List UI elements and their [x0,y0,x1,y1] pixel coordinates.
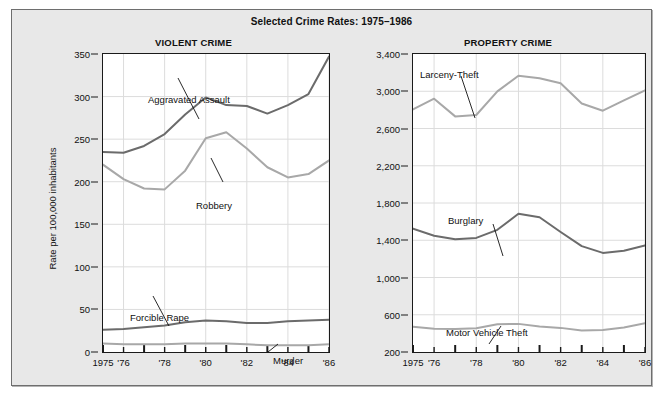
annotation-leader-line [211,158,223,182]
x-axis-tick-label: '86 [639,357,651,368]
x-axis-tick-label: '80 [512,357,524,368]
y-axis-tick-mark [91,352,98,353]
y-axis-tick-label: 3,000 [376,86,400,97]
y-axis-tick-label: 150 [74,219,90,230]
y-axis-tick-label: 1,400 [376,235,400,246]
x-axis-tick-label: '78 [158,357,170,368]
y-axis-tick-mark [401,277,408,278]
series-label-larceny-theft: Larceny-Theft [420,69,479,80]
x-axis-tick-label: '82 [554,357,566,368]
y-axis-tick-mark [401,203,408,204]
x-axis-labels-property: 1975'76'78'80'82'84'86 [412,357,646,373]
panel-heading-property: PROPERTY CRIME [334,37,646,48]
y-axis-tick-mark [91,181,98,182]
y-axis-tick-mark [401,128,408,129]
series-label-motor-vehicle-theft: Motor Vehicle Theft [446,327,528,338]
y-axis-tick-mark [401,314,408,315]
y-axis-tick-mark [401,54,408,55]
series-line-larceny-theft [413,76,645,117]
x-axis-tick-label: 1975 [402,357,423,368]
x-axis-tick-label: '76 [117,357,129,368]
crime-rates-figure: Selected Crime Rates: 1975–1986 VIOLENT … [0,0,665,410]
x-axis-tick-label: '82 [241,357,253,368]
y-axis-labels-violent: 050100150200250300350 [30,53,98,353]
property-crime-lines [413,54,645,352]
y-axis-tick-label: 300 [74,91,90,102]
annotation-leader-line [461,76,475,118]
y-axis-tick-label: 2,600 [376,123,400,134]
series-label-murder: Murder [273,355,303,366]
y-axis-tick-label: 50 [79,304,90,315]
x-axis-tick-label: '84 [597,357,609,368]
panel-heading-violent: VIOLENT CRIME [30,37,335,48]
x-axis-tick-label: '80 [200,357,212,368]
series-label-aggravated-assault: Aggravated Assault [148,94,230,105]
y-axis-tick-mark [401,240,408,241]
y-axis-tick-label: 200 [74,176,90,187]
panel-property-crime: PROPERTY CRIME 2006001,0001,4001,8002,20… [334,37,646,382]
series-label-forcible-rape: Forcible Rape [130,312,189,323]
y-axis-tick-label: 1,800 [376,198,400,209]
y-axis-tick-label: 350 [74,49,90,60]
y-axis-tick-mark [91,224,98,225]
figure-title: Selected Crime Rates: 1975–1986 [12,16,651,27]
y-axis-tick-mark [401,352,408,353]
figure-frame: Selected Crime Rates: 1975–1986 VIOLENT … [11,9,652,386]
y-axis-tick-mark [401,91,408,92]
x-axis-tick-label: '76 [428,357,440,368]
y-axis-labels-property: 2006001,0001,4001,8002,2002,6003,0003,40… [334,53,408,353]
y-axis-tick-mark [91,266,98,267]
y-axis-tick-mark [91,139,98,140]
series-label-burglary: Burglary [448,215,483,226]
y-axis-tick-label: 3,400 [376,49,400,60]
series-line-murder [103,343,329,345]
y-axis-tick-mark [91,54,98,55]
series-line-robbery [103,132,329,189]
y-axis-tick-label: 600 [384,309,400,320]
y-axis-tick-label: 100 [74,261,90,272]
y-axis-tick-label: 2,200 [376,160,400,171]
panel-violent-crime: VIOLENT CRIME Rate per 100,000 inhabitan… [30,37,335,382]
y-axis-tick-label: 1,000 [376,272,400,283]
y-axis-tick-label: 250 [74,134,90,145]
plot-area-property [412,53,646,353]
x-axis-tick-label: '78 [470,357,482,368]
y-axis-tick-mark [91,309,98,310]
y-axis-tick-label: 0 [85,347,90,358]
y-axis-tick-label: 200 [384,347,400,358]
series-label-robbery: Robbery [196,200,232,211]
x-axis-tick-label: 1975 [92,357,113,368]
y-axis-tick-mark [401,165,408,166]
y-axis-tick-mark [91,96,98,97]
